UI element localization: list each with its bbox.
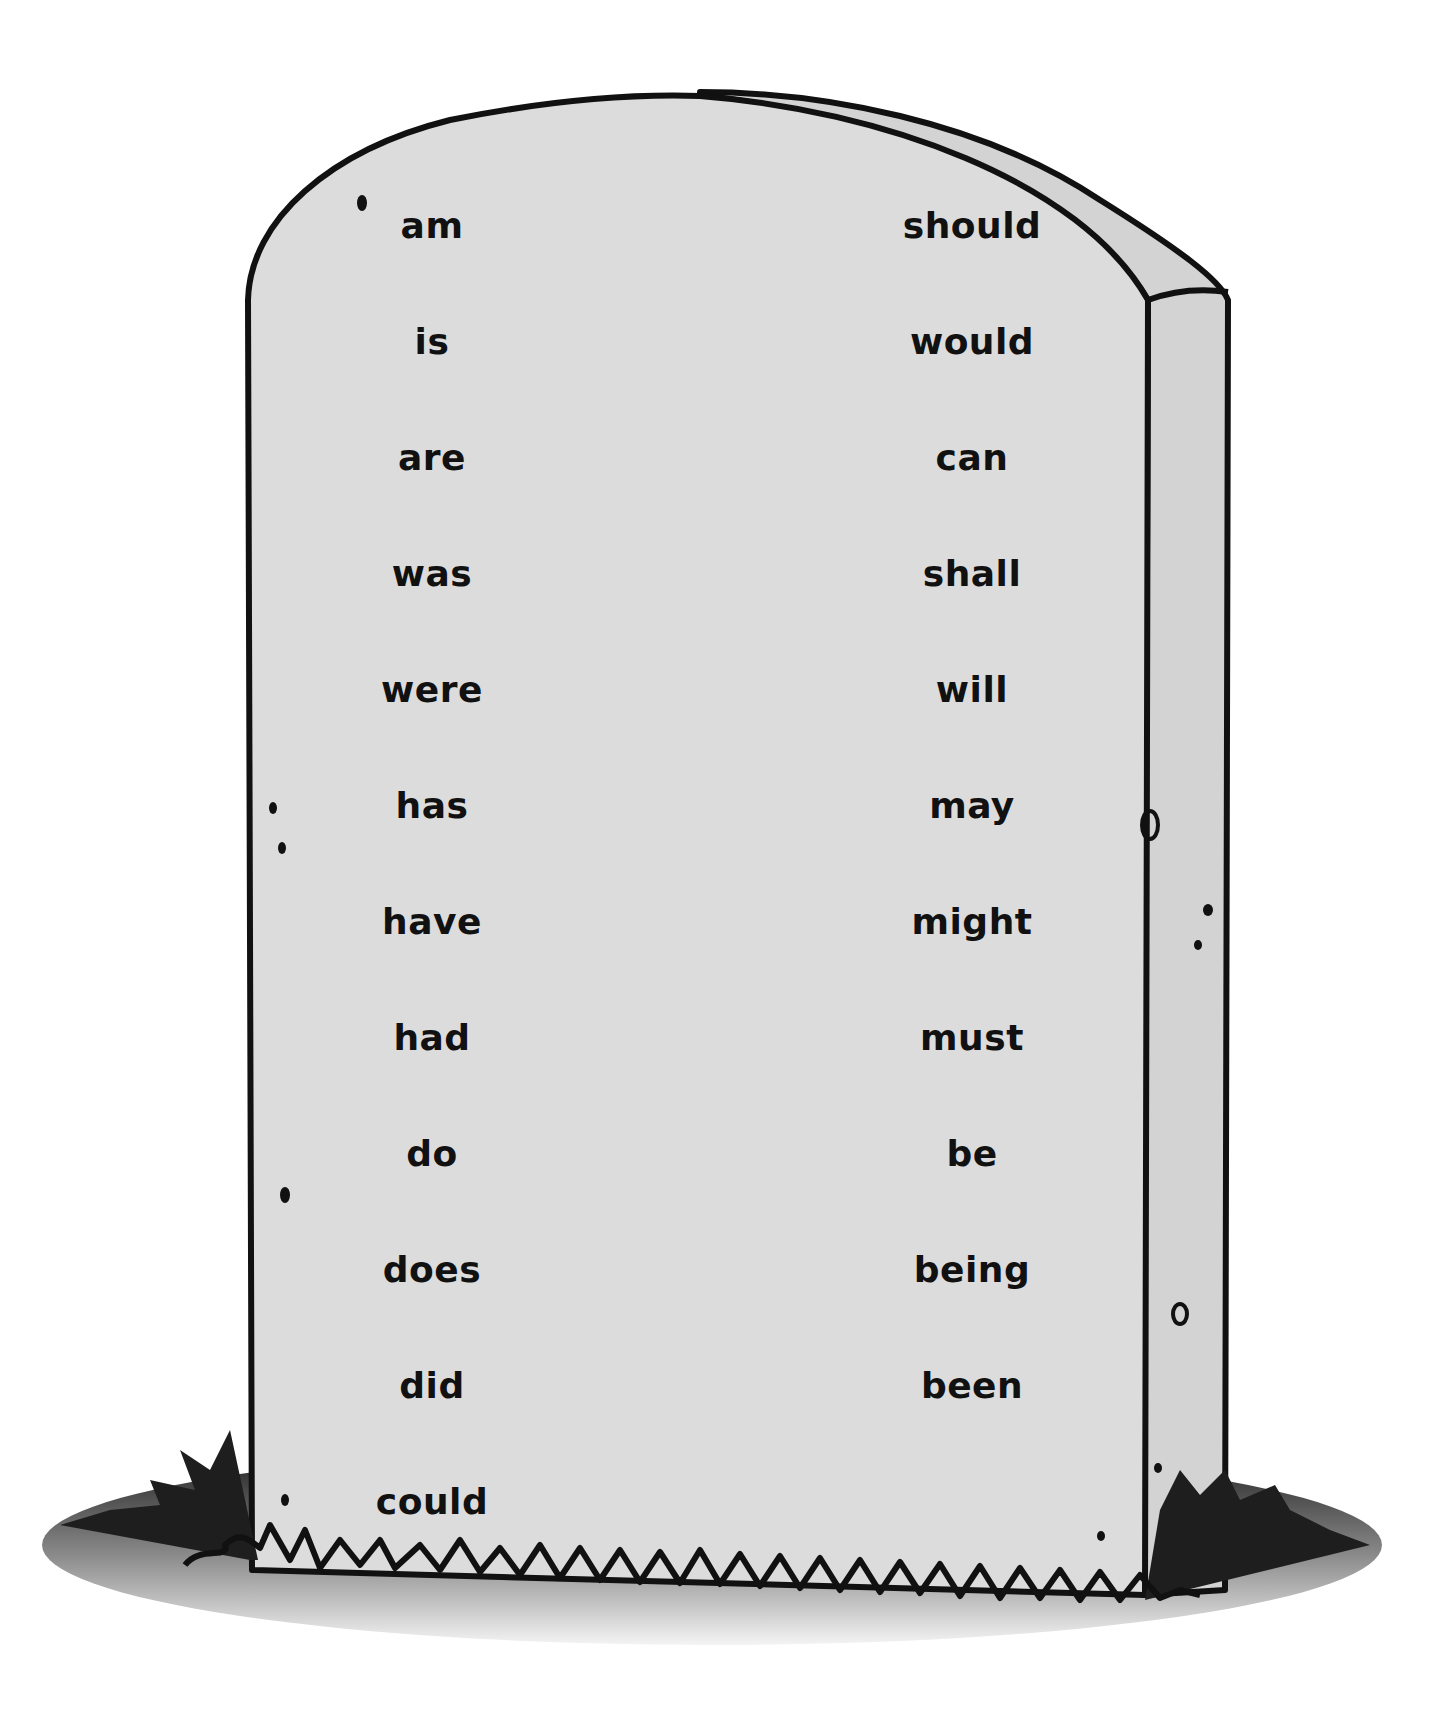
word-right: can bbox=[936, 437, 1009, 478]
word-right: shall bbox=[923, 553, 1022, 594]
word-left: was bbox=[392, 553, 472, 594]
tombstone-illustration bbox=[0, 0, 1444, 1729]
word-left: does bbox=[383, 1249, 481, 1290]
word-left: do bbox=[406, 1133, 458, 1174]
word-right: would bbox=[910, 321, 1034, 362]
word-right: should bbox=[903, 205, 1042, 246]
word-left: were bbox=[381, 669, 483, 710]
word-left: am bbox=[401, 205, 464, 246]
word-left: has bbox=[396, 785, 469, 826]
word-right: must bbox=[920, 1017, 1024, 1058]
word-right: be bbox=[946, 1133, 997, 1174]
word-left: are bbox=[398, 437, 466, 478]
word-right: might bbox=[912, 901, 1033, 942]
word-left: could bbox=[376, 1481, 488, 1522]
word-left: is bbox=[415, 321, 450, 362]
word-right: will bbox=[936, 669, 1008, 710]
word-left: did bbox=[399, 1365, 464, 1406]
word-right: being bbox=[914, 1249, 1030, 1290]
word-right: may bbox=[929, 785, 1015, 826]
word-left: have bbox=[382, 901, 482, 942]
word-left: had bbox=[393, 1017, 470, 1058]
word-right: been bbox=[921, 1365, 1023, 1406]
